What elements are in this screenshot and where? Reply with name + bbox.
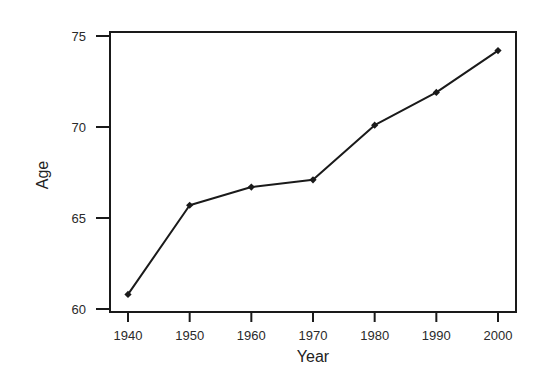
line-chart: 60657075 1940195019601970198019902000 Ye… <box>0 0 540 386</box>
x-tick-label: 1960 <box>237 328 266 343</box>
x-tick-label: 1980 <box>360 328 389 343</box>
x-axis-title: Year <box>297 348 330 365</box>
plot-frame <box>110 32 516 312</box>
data-series <box>124 47 501 298</box>
series-line <box>128 51 498 295</box>
x-tick-label: 1950 <box>175 328 204 343</box>
diamond-marker <box>248 183 255 190</box>
x-axis: 1940195019601970198019902000 <box>114 312 513 343</box>
y-tick-label: 65 <box>72 211 86 226</box>
x-tick-label: 1970 <box>299 328 328 343</box>
x-tick-label: 1940 <box>114 328 143 343</box>
y-axis: 60657075 <box>72 29 110 317</box>
y-tick-label: 60 <box>72 302 86 317</box>
y-axis-title: Age <box>34 161 51 190</box>
y-tick-label: 70 <box>72 120 86 135</box>
x-tick-label: 2000 <box>484 328 513 343</box>
x-tick-label: 1990 <box>422 328 451 343</box>
y-tick-label: 75 <box>72 29 86 44</box>
